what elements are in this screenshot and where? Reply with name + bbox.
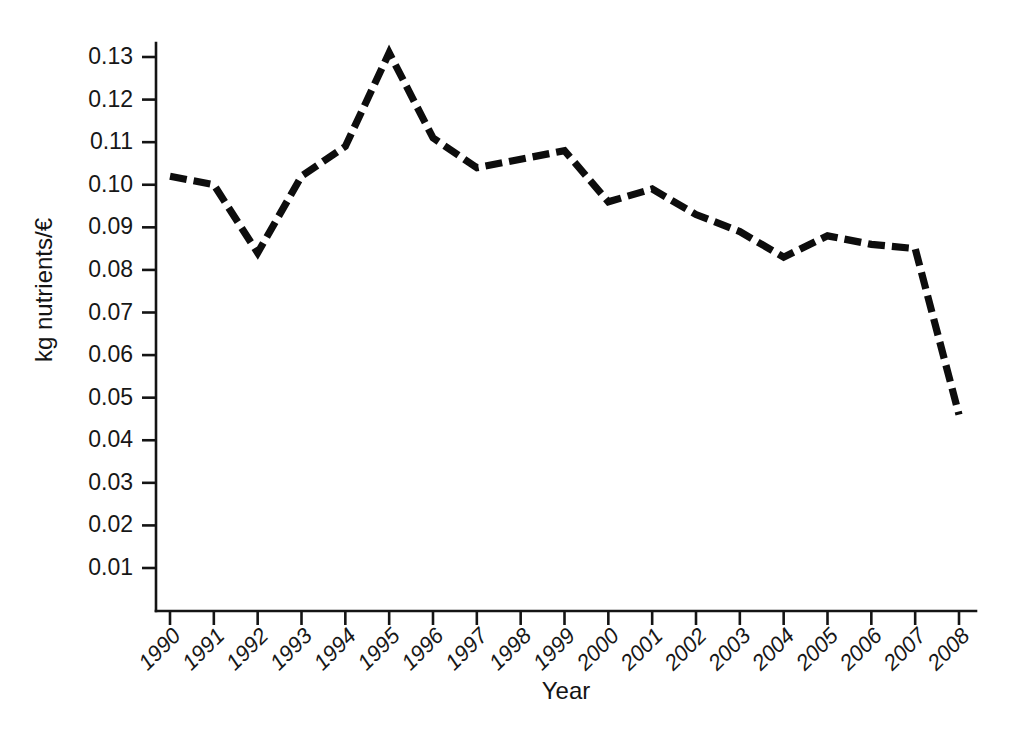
y-tick-label: 0.10 [88,171,133,197]
y-tick-label: 0.08 [88,256,133,282]
y-tick-label: 0.03 [88,469,133,495]
y-tick-label: 0.02 [88,511,133,537]
chart-background [0,0,1011,739]
y-axis-title: kg nutrients/€ [30,217,57,362]
y-tick-label: 0.12 [88,86,133,112]
y-tick-label: 0.01 [88,554,133,580]
line-chart: 0.130.120.110.100.090.080.070.060.050.04… [0,0,1011,739]
y-tick-label: 0.07 [88,299,133,325]
x-axis-title: Year [542,677,591,704]
y-tick-label: 0.05 [88,384,133,410]
y-tick-label: 0.11 [90,128,133,154]
y-tick-label: 0.04 [88,426,133,452]
y-tick-label: 0.13 [88,43,133,69]
y-tick-label: 0.06 [88,341,133,367]
chart-figure: 0.130.120.110.100.090.080.070.060.050.04… [0,0,1011,739]
y-tick-label: 0.09 [88,213,133,239]
